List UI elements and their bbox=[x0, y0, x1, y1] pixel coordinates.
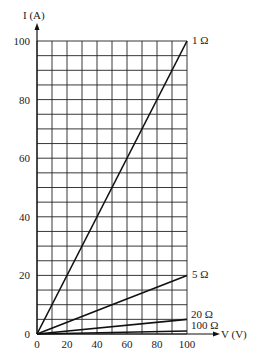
x-axis-arrow-icon bbox=[213, 332, 220, 337]
y-tick-label: 60 bbox=[19, 152, 31, 164]
series-label: 100 Ω bbox=[191, 319, 218, 331]
y-axis-label: I (A) bbox=[23, 9, 45, 22]
series-label: 1 Ω bbox=[192, 34, 208, 46]
x-tick-label: 100 bbox=[179, 338, 196, 350]
iv-chart: 020406080100020406080100 1 Ω5 Ω20 Ω100 Ω… bbox=[0, 0, 265, 355]
y-tick-label: 80 bbox=[19, 94, 31, 106]
y-tick-label: 0 bbox=[25, 328, 31, 340]
y-tick-label: 100 bbox=[14, 35, 31, 47]
tick-labels: 020406080100020406080100 bbox=[14, 35, 196, 350]
x-tick-label: 0 bbox=[34, 338, 40, 350]
x-tick-label: 40 bbox=[92, 338, 104, 350]
y-tick-label: 20 bbox=[19, 269, 31, 281]
y-tick-label: 40 bbox=[19, 211, 31, 223]
series-label: 5 Ω bbox=[192, 268, 208, 280]
x-tick-label: 80 bbox=[152, 338, 164, 350]
x-axis-label: V (V) bbox=[221, 328, 247, 341]
y-axis-arrow-icon bbox=[35, 23, 40, 30]
x-tick-label: 20 bbox=[62, 338, 74, 350]
series-labels: 1 Ω5 Ω20 Ω100 Ω bbox=[191, 34, 218, 331]
x-tick-label: 60 bbox=[122, 338, 134, 350]
